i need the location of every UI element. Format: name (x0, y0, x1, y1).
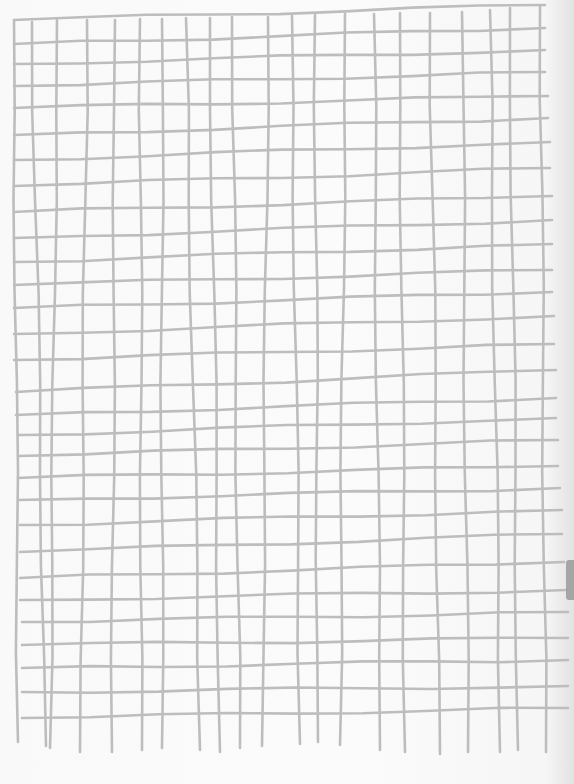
grid-horizontal-line (14, 196, 552, 212)
grid-horizontal-line (20, 562, 564, 578)
grid-horizontal-line (22, 660, 568, 668)
grid-horizontal-line (22, 638, 568, 645)
grid-horizontal-line (14, 5, 545, 20)
grid-horizontal-line (14, 244, 552, 262)
grid-horizontal-line (14, 118, 548, 135)
grid-horizontal-line (14, 28, 545, 44)
hand-drawn-grid (0, 0, 574, 784)
grid-vertical-line (50, 20, 57, 748)
grid-horizontal-line (18, 466, 558, 478)
grid-horizontal-line (14, 292, 552, 308)
grid-horizontal-line (22, 686, 568, 693)
grid-horizontal-line (14, 344, 554, 360)
paper-sheet (0, 0, 574, 784)
grid-horizontal-line (14, 220, 552, 238)
grid-vertical-line (32, 22, 46, 746)
grid-vertical-line (14, 20, 19, 742)
grid-horizontal-line (20, 534, 562, 552)
grid-horizontal-line (14, 168, 550, 186)
grid-horizontal-line (18, 440, 558, 456)
grid-vertical-line (400, 13, 405, 752)
grid-horizontal-line (22, 612, 568, 622)
grid-horizontal-line (20, 590, 566, 600)
grid-horizontal-line (14, 270, 552, 285)
grid-horizontal-line (14, 72, 545, 86)
grid-horizontal-line (18, 488, 560, 500)
grid-horizontal-line (14, 50, 545, 64)
grid-vertical-line (430, 13, 440, 754)
grid-vertical-line (160, 19, 163, 748)
grid-horizontal-line (18, 418, 556, 435)
grid-horizontal-line (14, 316, 554, 334)
grid-horizontal-line (16, 398, 556, 415)
page-edge-shadow (566, 560, 574, 600)
grid-horizontal-line (20, 510, 562, 525)
grid-vertical-line (232, 17, 240, 748)
grid-horizontal-line (16, 370, 556, 392)
grid-horizontal-line (22, 708, 568, 718)
grid-horizontal-line (14, 142, 550, 160)
grid-horizontal-line (14, 96, 548, 108)
